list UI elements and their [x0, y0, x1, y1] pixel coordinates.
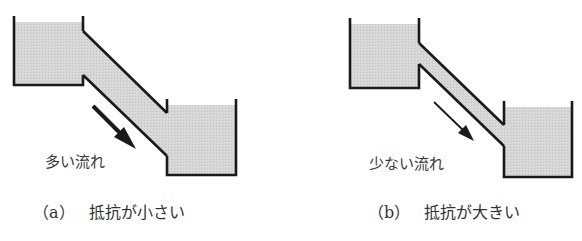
- caption-text-b: 抵抗が大きい: [424, 203, 520, 222]
- caption-a: （a）抵抗が小さい: [33, 199, 185, 223]
- caption-text-a: 抵抗が小さい: [89, 203, 185, 222]
- caption-tag-a: （a）: [33, 199, 75, 223]
- caption-tag-b: （b）: [368, 199, 410, 223]
- flow-label-b: 少ない流れ: [369, 152, 444, 173]
- flow-label-a: 多い流れ: [45, 150, 105, 171]
- pipe-top-edge-b: [419, 43, 504, 125]
- caption-b: （b）抵抗が大きい: [368, 199, 520, 223]
